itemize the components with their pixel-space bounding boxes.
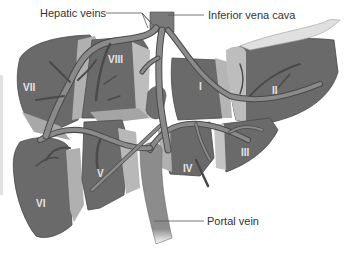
segment-vi: [13, 138, 84, 238]
segment-label-ii: II: [272, 85, 278, 96]
segment-label-viii: VIII: [108, 54, 123, 65]
liver-segments-illustration: VII VIII I II III IV V VI: [0, 0, 347, 254]
segment-label-vii: VII: [23, 82, 35, 93]
callout-portal-vein: Portal vein: [207, 215, 259, 227]
segment-label-vi: VI: [36, 198, 46, 209]
segment-label-i: I: [199, 81, 202, 92]
segment-label-iv: IV: [183, 163, 193, 174]
callout-inferior-vena-cava: Inferior vena cava: [208, 9, 295, 21]
callout-hepatic-veins: Hepatic veins: [40, 7, 106, 19]
segment-label-iii: III: [241, 147, 250, 158]
segment-label-v: V: [97, 168, 104, 179]
